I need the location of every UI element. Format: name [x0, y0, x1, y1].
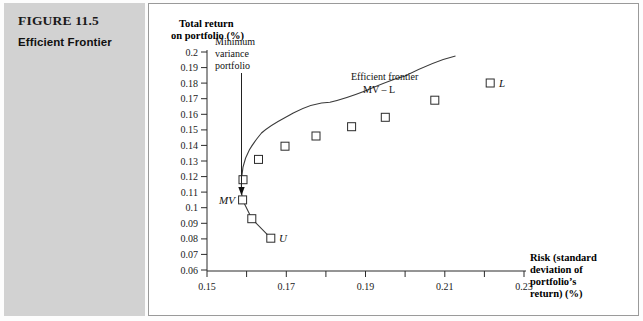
- minimum-variance-label-line1: Minimum: [215, 36, 255, 47]
- mv-point-label: MV: [218, 194, 236, 206]
- y-tick-label: 0.14: [181, 140, 199, 151]
- x-axis-title-line4: return) (%): [530, 288, 583, 300]
- y-tick-label: 0.09: [181, 218, 199, 229]
- y-axis-tick-labels: 0.2 0.19 0.18 0.17 0.16 0.15 0.14 0.13 0…: [181, 47, 199, 276]
- data-point-mv: [239, 196, 247, 204]
- efficient-frontier-chart: Total return on portfolio (%) Risk (stan…: [148, 3, 639, 316]
- y-tick-label: 0.07: [181, 249, 199, 260]
- data-point: [431, 96, 439, 104]
- data-point: [381, 113, 389, 121]
- x-axis-tick-labels: 0.15 0.17 0.19 0.21 0.23: [198, 281, 533, 292]
- minimum-variance-label-line2: variance: [215, 48, 249, 59]
- y-tick-label: 0.18: [181, 78, 199, 89]
- y-tick-label: 0.16: [181, 109, 199, 120]
- data-point: [255, 155, 263, 163]
- u-point-label: U: [279, 232, 288, 244]
- data-point: [348, 123, 356, 131]
- x-tick-label: 0.21: [436, 281, 454, 292]
- y-tick-label: 0.17: [181, 93, 199, 104]
- data-point: [312, 132, 320, 140]
- x-axis-title-line1: Risk (standard: [530, 252, 597, 264]
- x-tick-label: 0.15: [198, 281, 216, 292]
- x-tick-label: 0.19: [357, 281, 375, 292]
- x-tick-label: 0.23: [515, 281, 533, 292]
- x-axis-title-line3: portfolio’s: [530, 276, 576, 287]
- caption-panel: FIGURE 11.5 Efficient Frontier: [4, 3, 145, 316]
- y-tick-label: 0.08: [181, 233, 199, 244]
- efficient-frontier-label-line1: Efficient frontier: [351, 71, 419, 82]
- x-tick-label: 0.17: [278, 281, 296, 292]
- y-axis-title-line1: Total return: [179, 18, 234, 29]
- efficient-frontier-label-line2: MV – L: [363, 84, 395, 95]
- figure-container: FIGURE 11.5 Efficient Frontier Total ret…: [0, 0, 643, 321]
- y-tick-label: 0.19: [181, 62, 199, 73]
- data-point: [248, 215, 256, 223]
- minimum-variance-arrowhead: [238, 187, 244, 196]
- l-point-label: L: [498, 77, 505, 89]
- y-tick-label: 0.12: [181, 171, 199, 182]
- data-point-u: [267, 234, 275, 242]
- lower-branch-curve: [243, 200, 271, 238]
- figure-number: FIGURE 11.5: [18, 13, 99, 29]
- y-axis-ticks: [201, 52, 207, 270]
- data-point-markers: [239, 79, 495, 242]
- figure-title: Efficient Frontier: [18, 36, 112, 48]
- x-axis-title-line2: deviation of: [530, 264, 583, 275]
- y-tick-label: 0.06: [181, 265, 199, 276]
- data-point: [281, 142, 289, 150]
- y-tick-label: 0.1: [186, 202, 199, 213]
- y-tick-label: 0.2: [186, 47, 199, 58]
- minimum-variance-label-line3: portfolio: [215, 60, 250, 71]
- y-tick-label: 0.13: [181, 156, 199, 167]
- data-point: [239, 176, 247, 184]
- data-point-l: [486, 79, 494, 87]
- x-axis-ticks: [207, 271, 524, 277]
- y-tick-label: 0.15: [181, 124, 199, 135]
- y-tick-label: 0.11: [181, 187, 198, 198]
